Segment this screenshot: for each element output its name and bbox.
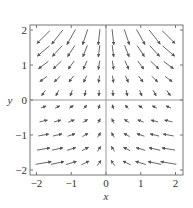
vector-arrow <box>112 133 115 138</box>
vector-arrow <box>98 105 99 109</box>
vector-arrow <box>136 161 146 164</box>
vector-arrow <box>53 61 61 69</box>
vector-arrow <box>164 61 174 68</box>
y-axis-label: y <box>7 94 13 106</box>
vector-arrow <box>149 148 160 150</box>
vector-arrow <box>123 161 130 165</box>
vector-arrow <box>165 120 173 122</box>
vector-arrow <box>112 76 113 83</box>
vector-arrow <box>97 160 101 165</box>
vector-arrow <box>140 90 142 96</box>
vector-arrow <box>138 61 144 69</box>
vector-arrow <box>40 76 47 81</box>
vector-arrow <box>67 29 75 44</box>
vector-arrow <box>68 45 75 56</box>
vector-arrow <box>81 161 88 165</box>
vector-arrow <box>42 90 46 95</box>
vector-arrow <box>83 119 88 122</box>
vector-arrow <box>150 46 160 57</box>
vector-arrow <box>68 134 75 136</box>
vector-arrow <box>151 120 158 122</box>
vector-arrow <box>139 106 143 109</box>
y-tick-label: 2 <box>22 24 28 36</box>
vector-arrow <box>112 29 114 44</box>
vector-arrow <box>167 90 171 95</box>
vector-arrow <box>138 76 143 82</box>
vector-arrow <box>137 134 144 136</box>
vector-arrow <box>98 45 100 57</box>
vector-arrow <box>52 30 63 44</box>
vector-arrow <box>84 90 85 96</box>
y-tick-label: 0 <box>22 94 28 106</box>
vector-arrow <box>84 76 87 83</box>
vector-arrow <box>68 120 74 122</box>
vector-arrow <box>56 90 59 95</box>
vector-arrow <box>112 119 114 123</box>
vector-arrow <box>152 106 157 108</box>
vector-arrow <box>97 147 100 152</box>
vector-arrow <box>69 76 74 82</box>
vector-arrow <box>112 61 113 70</box>
vector-arrow <box>82 147 89 150</box>
vector-arrow <box>112 45 114 57</box>
vector-arrow <box>151 61 159 69</box>
vector-arrow <box>83 45 87 56</box>
vector-arrow <box>39 61 49 68</box>
y-tick-label: −1 <box>15 129 27 141</box>
vector-arrow <box>70 90 72 96</box>
vector-arrow <box>166 106 171 108</box>
vector-arrow <box>52 148 63 150</box>
vector-arrow <box>83 29 88 44</box>
vector-arrow <box>111 160 115 165</box>
vector-arrow <box>66 161 76 164</box>
vector-arrow <box>137 45 144 56</box>
vector-arrow <box>124 29 129 44</box>
vector-arrow <box>37 31 50 44</box>
y-tick-label: 1 <box>22 59 28 71</box>
vector-arrow <box>99 76 100 83</box>
vector-arrow <box>68 61 74 69</box>
x-tick-label: 1 <box>138 177 144 189</box>
vector-arrow <box>126 90 127 96</box>
vector-arrow <box>54 76 60 82</box>
vector-arrow <box>163 134 173 136</box>
vector-arrow <box>54 120 61 122</box>
vector-arrow <box>149 30 160 44</box>
vector-arrow <box>82 133 88 136</box>
vector-arrow <box>38 134 48 136</box>
vector-arrow <box>52 46 62 57</box>
vector-arrow <box>41 106 46 108</box>
vector-arrow <box>124 147 131 150</box>
vector-arrow <box>51 162 64 165</box>
vector-arrow <box>111 147 114 152</box>
vector-arrow <box>69 106 73 109</box>
vector-arrow <box>84 105 87 108</box>
vector-arrow <box>36 162 52 165</box>
vector-arrow <box>83 61 87 69</box>
vector-arrow <box>152 76 158 82</box>
vector-arrow <box>137 29 145 44</box>
vector-field-plot: −2−1012−2−1012 x y <box>0 0 193 208</box>
vector-arrow <box>37 46 49 56</box>
vector-arrow <box>153 90 156 95</box>
vector-arrow <box>98 61 99 70</box>
vector-arrow <box>162 31 175 44</box>
vector-arrow <box>125 61 129 69</box>
vector-arrow <box>150 134 159 136</box>
vector-arrow <box>40 120 48 122</box>
x-tick-label: −2 <box>31 177 43 189</box>
vector-arrow <box>98 29 100 44</box>
x-axis-label: x <box>103 190 109 202</box>
y-tick-label: −2 <box>15 164 27 176</box>
vector-arrow <box>53 134 62 136</box>
vector-arrow <box>125 105 128 108</box>
vector-arrow <box>136 148 145 151</box>
vector-arrow <box>138 120 144 122</box>
x-tick-label: −1 <box>65 177 77 189</box>
vector-arrow <box>67 148 76 151</box>
vector-arrow <box>161 162 177 165</box>
vector-arrow <box>124 133 130 136</box>
vector-arrow <box>162 148 175 150</box>
vector-arrow <box>125 119 130 122</box>
vector-arrow <box>55 106 60 108</box>
